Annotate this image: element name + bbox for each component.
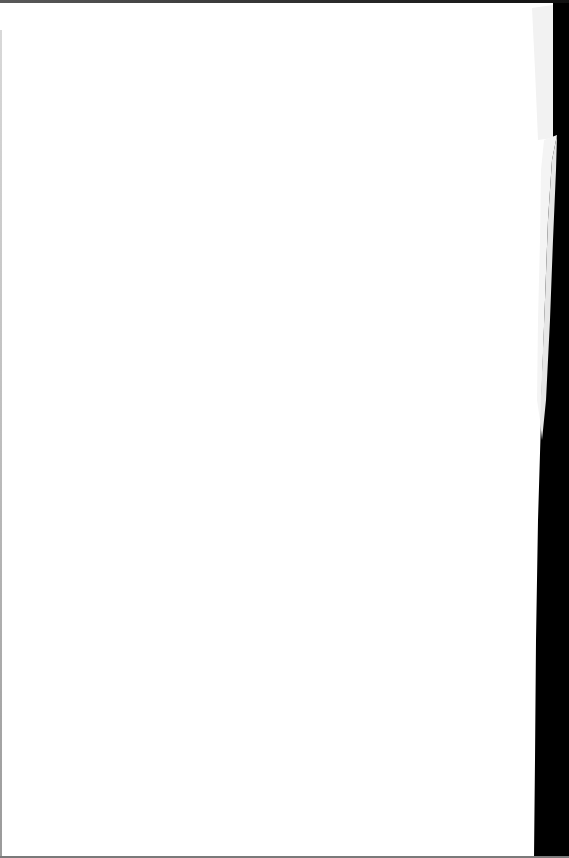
paper-sheet xyxy=(0,3,553,858)
left-scan-edge xyxy=(0,30,2,858)
top-scan-edge xyxy=(0,0,569,3)
page-shape xyxy=(0,0,569,858)
scanned-blank-page xyxy=(0,0,569,858)
